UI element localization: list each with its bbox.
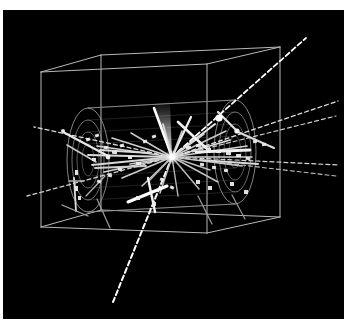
hit-marker [226,152,231,155]
bright-node [234,128,239,133]
event-display-canvas[interactable] [3,10,344,319]
hit-marker [170,185,175,189]
segment-seg-06 [97,199,110,228]
bright-node [215,114,222,121]
box-connector-edge [41,210,101,227]
hit-marker [212,166,216,169]
box-back-edge [101,210,280,217]
hit-marker [224,169,228,172]
hit-marker [112,151,117,154]
bright-node [106,155,111,160]
barrel-guide [88,192,235,200]
primary-vertex-marker [170,155,175,160]
hit-marker [262,143,266,147]
event-display-scene [3,10,344,319]
hit-marker [244,190,248,194]
hit-marker [196,180,200,184]
hit-marker [200,163,204,166]
bright-node [61,129,65,133]
hit-marker [186,146,191,149]
hit-marker [230,182,234,186]
primary-vertex-layer [164,149,179,164]
hit-marker [253,140,257,144]
segment-seg-18 [95,166,146,168]
hit-marker [75,186,78,191]
hit-marker [246,157,250,160]
hit-marker [236,154,241,157]
segment-seg-12 [198,196,212,224]
box-front-edge [41,227,207,233]
hit-marker [92,158,96,161]
track-trk-02 [172,101,338,157]
event-display-root [0,0,344,330]
barrel-guide [88,204,235,212]
hit-marker [152,134,157,138]
hit-marker [104,146,108,150]
hit-marker [75,170,78,175]
hit-marker [206,148,211,151]
track-layer [27,38,339,302]
segment-seg-07 [128,186,167,202]
hit-marker [95,133,100,137]
box-back-edge [101,47,280,55]
hit-marker [136,162,141,166]
hit-marker [216,150,221,153]
box-connector-edge [207,217,280,233]
hit-marker [136,196,140,200]
hit-marker [128,156,132,159]
hit-marker [196,144,201,147]
segment-seg-15 [196,150,250,152]
hit-marker [152,202,156,206]
left-endcap-ring [67,108,109,212]
hit-marker [208,186,212,190]
hit-marker [78,196,81,200]
